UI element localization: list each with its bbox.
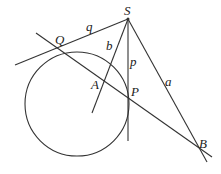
label-q: Q: [55, 32, 65, 47]
secant-line-qpb: [36, 33, 212, 157]
line-a: [128, 19, 207, 162]
segment-label-a: a: [165, 74, 172, 89]
label-s: S: [124, 3, 131, 18]
segment-label-p: p: [129, 54, 137, 69]
circle: [25, 52, 129, 156]
label-a: A: [90, 77, 99, 92]
segment-label-q: q: [86, 19, 93, 34]
label-b: B: [199, 136, 207, 151]
geometry-diagram: S Q P A B q b p a: [0, 0, 221, 174]
label-p: P: [130, 84, 139, 99]
line-b: [92, 19, 128, 113]
segment-label-b: b: [106, 38, 113, 53]
